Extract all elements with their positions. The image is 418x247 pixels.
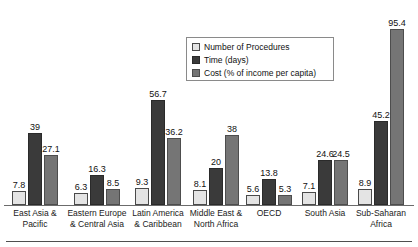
- plot-area: 7.83927.16.316.38.59.356.736.28.120385.6…: [0, 0, 418, 206]
- bar-group: 8.945.295.4: [356, 29, 406, 205]
- bar-value-label: 5.6: [247, 184, 260, 194]
- bar-slot: 27.1: [44, 155, 58, 205]
- bar-slot: 5.6: [246, 195, 260, 205]
- bar-value-label: 8.1: [194, 179, 207, 189]
- category-label: Sub-SaharanAfrica: [345, 208, 417, 230]
- legend-item-label: Number of Procedures: [204, 42, 290, 52]
- bar-slot: 7.1: [302, 192, 316, 205]
- bar-value-label: 5.3: [279, 184, 292, 194]
- category-axis: East Asia &PacificEastern Europe& Centra…: [0, 208, 418, 234]
- bar-slot: 6.3: [74, 193, 88, 205]
- bar-slot: 8.1: [193, 190, 207, 205]
- bar: [135, 188, 149, 205]
- legend-swatch-icon: [192, 43, 200, 51]
- bar-value-label: 24.5: [332, 149, 350, 159]
- bar: [193, 190, 207, 205]
- bar-slot: 24.5: [334, 160, 348, 205]
- bar-value-label: 38: [227, 124, 237, 134]
- bar-value-label: 24.6: [316, 149, 334, 159]
- bar: [278, 195, 292, 205]
- bar-slot: 16.3: [90, 175, 104, 205]
- bottom-divider: [6, 241, 412, 242]
- bar: [151, 100, 165, 205]
- bar-slot: 20: [209, 168, 223, 205]
- bar-value-label: 13.8: [260, 168, 278, 178]
- bar: [302, 192, 316, 205]
- legend-item-label: Cost (% of income per capita): [204, 68, 316, 78]
- bar: [374, 121, 388, 205]
- legend-swatch-icon: [192, 56, 200, 64]
- bar: [167, 138, 181, 205]
- bar: [106, 189, 120, 205]
- bar-group: 5.613.85.3: [244, 179, 294, 205]
- bar-group: 9.356.736.2: [133, 100, 183, 205]
- bar-value-label: 16.3: [88, 164, 106, 174]
- bar: [12, 191, 26, 205]
- bar-value-label: 27.1: [42, 144, 60, 154]
- bar-group: 7.124.624.5: [300, 160, 350, 206]
- bar-slot: 9.3: [135, 188, 149, 205]
- bar-value-label: 36.2: [165, 127, 183, 137]
- bar-slot: 39: [28, 133, 42, 205]
- bar: [390, 29, 404, 205]
- bar-value-label: 39: [30, 122, 40, 132]
- bar-value-label: 7.8: [13, 180, 26, 190]
- bar: [262, 179, 276, 205]
- bar-value-label: 8.9: [359, 178, 372, 188]
- bar: [90, 175, 104, 205]
- bar-value-label: 6.3: [75, 182, 88, 192]
- legend-item-number-of-procedures: Number of Procedures: [192, 41, 328, 53]
- bar-slot: 45.2: [374, 121, 388, 205]
- bar-value-label: 20: [211, 157, 221, 167]
- legend-item-time-days: Time (days): [192, 54, 328, 66]
- bar: [209, 168, 223, 205]
- bar: [74, 193, 88, 205]
- bar-slot: 5.3: [278, 195, 292, 205]
- legend-item-cost-percent-income: Cost (% of income per capita): [192, 67, 328, 79]
- bar: [225, 135, 239, 205]
- legend-item-label: Time (days): [204, 55, 249, 65]
- bar: [334, 160, 348, 205]
- bar-value-label: 45.2: [372, 110, 390, 120]
- bar: [358, 189, 372, 205]
- bar-slot: 95.4: [390, 29, 404, 205]
- category-label-line: Africa: [345, 219, 417, 230]
- legend-swatch-icon: [192, 69, 200, 77]
- bar-group: 6.316.38.5: [72, 175, 122, 205]
- bar-value-label: 56.7: [149, 89, 167, 99]
- bar-group: 8.12038: [191, 135, 241, 205]
- bar-slot: 8.9: [358, 189, 372, 205]
- category-label-line: Sub-Saharan: [345, 208, 417, 219]
- bar-value-label: 95.4: [388, 18, 406, 28]
- bar-slot: 24.6: [318, 160, 332, 206]
- bar-chart: 7.83927.16.316.38.59.356.736.28.120385.6…: [0, 0, 418, 247]
- category-label-line: North Africa: [180, 219, 252, 230]
- bar: [246, 195, 260, 205]
- bar-slot: 36.2: [167, 138, 181, 205]
- bar-value-label: 8.5: [107, 178, 120, 188]
- x-axis-line: [4, 205, 414, 206]
- bar-slot: 38: [225, 135, 239, 205]
- chart-legend: Number of Procedures Time (days) Cost (%…: [186, 37, 334, 81]
- bar-value-label: 7.1: [303, 181, 316, 191]
- bar-value-label: 9.3: [136, 177, 149, 187]
- bar: [44, 155, 58, 205]
- bar-slot: 13.8: [262, 179, 276, 205]
- bar: [318, 160, 332, 206]
- bar-slot: 56.7: [151, 100, 165, 205]
- bar: [28, 133, 42, 205]
- bar-slot: 7.8: [12, 191, 26, 205]
- bar-slot: 8.5: [106, 189, 120, 205]
- bar-group: 7.83927.1: [10, 133, 60, 205]
